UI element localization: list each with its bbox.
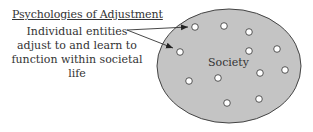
society-label: Society (208, 56, 250, 69)
individual-entity (192, 24, 199, 31)
individual-entity (246, 48, 253, 55)
individual-entity (221, 23, 228, 30)
individual-entity (274, 46, 281, 53)
individual-entity (224, 100, 231, 107)
individual-entity (186, 78, 193, 85)
individual-entity (256, 96, 263, 103)
individual-entity (246, 29, 253, 36)
individual-entity (215, 75, 222, 82)
society-diagram: Society (0, 0, 313, 132)
individual-entity (177, 49, 184, 56)
individual-entity (282, 67, 289, 74)
individual-entity (257, 70, 264, 77)
